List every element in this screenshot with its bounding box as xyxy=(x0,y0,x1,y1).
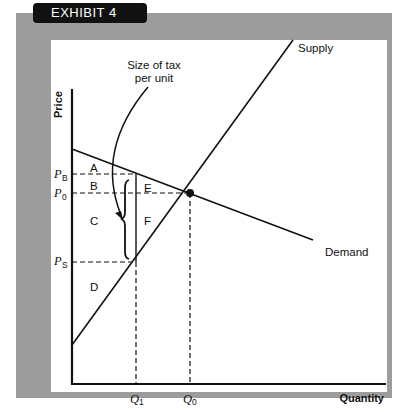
supply-label: Supply xyxy=(298,42,333,54)
region-a-label: A xyxy=(90,162,98,174)
region-d-label: D xyxy=(90,281,98,293)
q0-label: Q0 xyxy=(183,392,197,407)
svg-text:0: 0 xyxy=(62,192,67,202)
svg-text:B: B xyxy=(62,173,68,183)
region-c-label: C xyxy=(90,215,98,227)
ps-tick-label: P S xyxy=(53,254,68,270)
svg-text:P: P xyxy=(53,254,62,268)
q1-label: Q1 xyxy=(130,392,144,407)
annotation-line2: per unit xyxy=(135,72,174,84)
svg-text:P: P xyxy=(53,186,62,200)
svg-text:S: S xyxy=(62,260,68,270)
annotation-line1: Size of tax xyxy=(127,59,181,71)
equilibrium-point xyxy=(186,189,194,197)
supply-demand-chart: Size of tax per unit Supply Demand Price… xyxy=(0,0,395,412)
demand-label: Demand xyxy=(325,246,368,258)
region-e-label: E xyxy=(144,182,152,194)
annotation-arrow-line xyxy=(112,87,148,215)
region-b-label: B xyxy=(90,180,98,192)
p0-tick-label: P 0 xyxy=(53,186,67,202)
region-f-label: F xyxy=(144,215,151,227)
x-axis-title: Quantity xyxy=(339,392,384,404)
y-axis-title: Price xyxy=(52,91,64,118)
tax-brace xyxy=(121,180,129,259)
svg-text:P: P xyxy=(53,167,62,181)
pb-tick-label: P B xyxy=(53,167,68,183)
arrowhead-icon xyxy=(115,211,123,220)
